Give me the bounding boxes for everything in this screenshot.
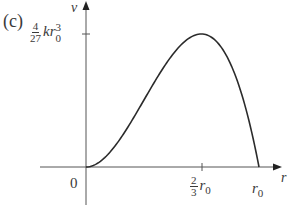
ytick-fraction: 4 27: [30, 21, 41, 44]
curve-v-of-r: [86, 34, 259, 167]
xtick-label-2-3-r0: 2 3 r0: [190, 175, 211, 198]
xtick-label-r0: r0: [252, 181, 263, 199]
x-axis-label: r: [281, 171, 286, 185]
xtick-sub: 0: [258, 187, 264, 199]
xtick-fraction: 2 3: [190, 175, 198, 198]
frac-den: 27: [30, 33, 41, 44]
origin-label: 0: [70, 176, 78, 191]
xtick-sub: 0: [205, 184, 211, 196]
frac-den: 3: [191, 187, 197, 198]
y-axis-label: v: [71, 1, 77, 15]
y-axis-arrow-icon: [83, 1, 90, 10]
ytick-supsub: 30: [56, 22, 62, 44]
ytick-sub: 0: [56, 33, 62, 44]
ytick-sup: 3: [56, 22, 62, 33]
ytick-k: k: [43, 23, 50, 39]
ytick-label: 4 27 kr30: [30, 21, 61, 44]
panel-label: (c): [3, 12, 23, 30]
